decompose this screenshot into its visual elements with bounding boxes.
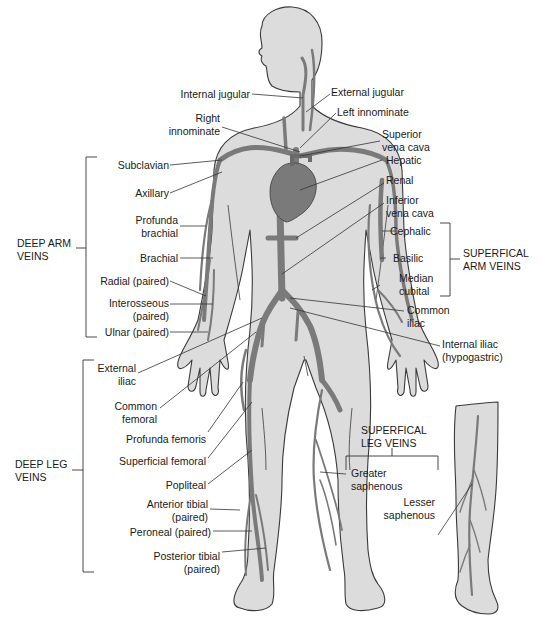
label-subclavian: Subclavian (100, 159, 169, 172)
label-hepatic: Hepatic (386, 154, 422, 167)
label-superior-vena-cava: Superior vena cava (382, 128, 430, 153)
label-lesser-saphenous: Lesser saphenous (380, 496, 435, 521)
label-brachial: Brachial (100, 252, 178, 265)
label-common-iliac: Common iliac (407, 304, 450, 329)
label-basilic: Basilic (393, 252, 423, 265)
label-left-innominate: Left innominate (337, 106, 409, 119)
label-popliteal: Popliteal (100, 479, 206, 492)
group-superficial-arm-veins: SUPERFICAL ARM VEINS (463, 247, 529, 272)
label-peroneal: Peroneal (paired) (100, 526, 211, 539)
label-inferior-vena-cava: Inferior vena cava (386, 194, 434, 219)
label-greater-saphenous: Greater saphenous (351, 467, 402, 492)
label-profunda-femoris: Profunda femoris (100, 433, 206, 446)
label-interosseous: Interosseous (paired) (80, 297, 169, 322)
label-internal-iliac: Internal iliac (hypogastric) (442, 338, 503, 363)
label-ulnar: Ulnar (paired) (80, 326, 169, 339)
label-superficial-femoral: Superficial femoral (100, 455, 206, 468)
label-right-innominate: Right innominate (150, 112, 220, 137)
label-posterior-tibial: Posterior tibial (paired) (100, 550, 220, 575)
group-superficial-leg-veins: SUPERFICAL LEG VEINS (361, 424, 427, 449)
label-internal-jugular: Internal jugular (150, 88, 250, 101)
label-radial: Radial (paired) (80, 275, 169, 288)
label-external-iliac: External iliac (80, 362, 136, 387)
label-profunda-brachial: Profunda brachial (100, 214, 178, 239)
group-deep-leg-veins: DEEP LEG VEINS (15, 458, 67, 483)
label-common-femoral: Common femoral (100, 400, 157, 425)
label-renal: Renal (386, 174, 413, 187)
label-cephalic: Cephalic (390, 225, 431, 238)
group-deep-arm-veins: DEEP ARM VEINS (17, 237, 71, 262)
label-median-cubital: Median cubital (399, 272, 433, 297)
label-anterior-tibial: Anterior tibial (paired) (100, 498, 208, 523)
label-external-jugular: External jugular (331, 86, 404, 99)
label-axillary: Axillary (100, 187, 169, 200)
